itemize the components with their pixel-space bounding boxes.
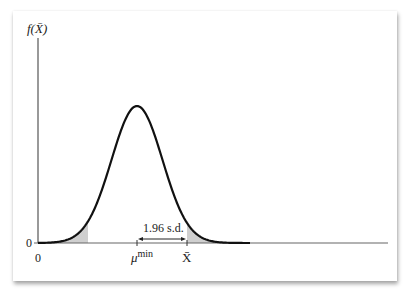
mu-label: μmin (130, 248, 153, 265)
arrowhead-left-icon (138, 237, 143, 241)
x-origin-label: 0 (35, 251, 41, 265)
xbar-label: X̄ (182, 250, 192, 265)
arrowhead-right-icon (181, 237, 186, 241)
mu-superscript: min (138, 248, 154, 259)
y-origin-label: 0 (26, 236, 32, 250)
normal-distribution-diagram: f(X̄) 0 0 1.96 s.d. μmin X̄ (0, 0, 412, 294)
y-axis-label: f(X̄) (27, 21, 47, 36)
interval-label: 1.96 s.d. (143, 221, 184, 235)
